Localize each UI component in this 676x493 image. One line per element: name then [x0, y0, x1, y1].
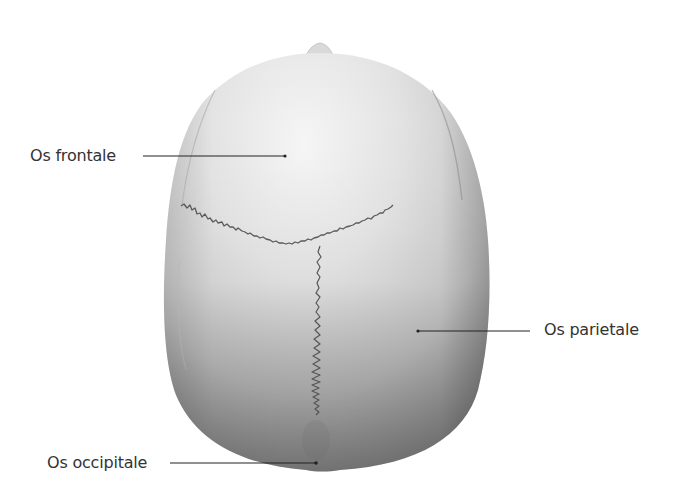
skull-illustration [0, 0, 676, 493]
label-os-parietale: Os parietale [544, 322, 639, 338]
label-os-occipitale: Os occipitale [47, 455, 147, 471]
label-os-frontale: Os frontale [30, 148, 116, 164]
skull-diagram: Os frontale Os parietale Os occipitale [0, 0, 676, 493]
